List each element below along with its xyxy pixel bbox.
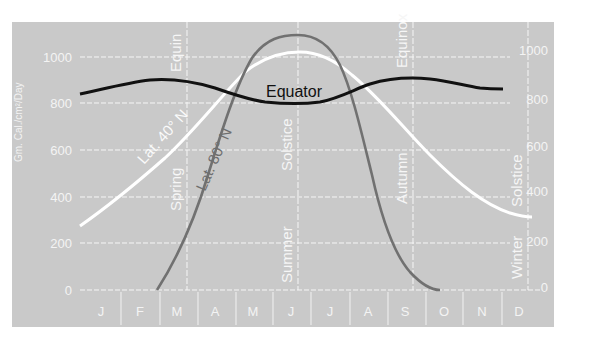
month-label: J <box>327 304 334 319</box>
month-label: M <box>172 304 183 319</box>
month-label: J <box>98 304 105 319</box>
y-tick: 200 <box>50 236 72 251</box>
y-tick: 800 <box>50 96 72 111</box>
insolation-chart: 1000 800 600 400 200 0 Gm. Cal./cm²/Day … <box>0 0 596 337</box>
winter-solstice-label: Solstice <box>508 154 525 207</box>
summer-solstice-label: Solstice <box>278 118 295 171</box>
y-tick: 1000 <box>43 50 72 65</box>
y-tick: 800 <box>526 92 548 107</box>
month-label: J <box>288 304 295 319</box>
y-tick: 0 <box>541 280 548 295</box>
y-tick: 400 <box>526 184 548 199</box>
y-tick: 600 <box>526 139 548 154</box>
summer-label: Summer <box>278 226 295 283</box>
y-axis-title: Gm. Cal./cm²/Day <box>13 83 24 162</box>
month-label: A <box>364 304 373 319</box>
winter-label: Winter <box>508 236 525 279</box>
month-label: M <box>248 304 259 319</box>
month-label: S <box>401 304 410 319</box>
month-label: D <box>514 304 523 319</box>
equator-label: Equator <box>266 83 323 100</box>
spring-label: Spring <box>167 168 184 211</box>
y-tick: 0 <box>65 283 72 298</box>
y-tick: 200 <box>526 234 548 249</box>
spring-equinox-label: Equin <box>167 34 184 72</box>
month-label: O <box>439 304 449 319</box>
month-label: F <box>136 304 144 319</box>
autumn-equinox-label: Equinox <box>393 13 410 68</box>
month-label: N <box>477 304 486 319</box>
y-tick: 1000 <box>519 43 548 58</box>
y-tick: 400 <box>50 190 72 205</box>
month-label: A <box>211 304 220 319</box>
autumn-label: Autumn <box>393 152 410 204</box>
y-tick: 600 <box>50 143 72 158</box>
